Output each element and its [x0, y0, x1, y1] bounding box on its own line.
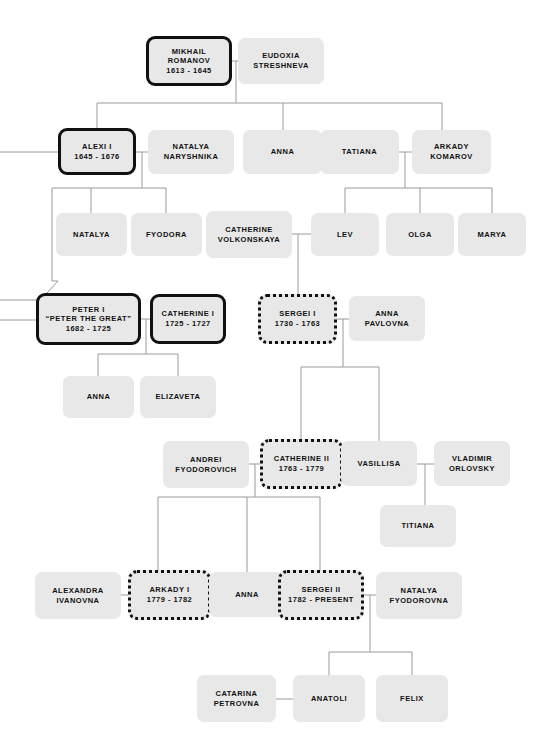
family-tree-diagram: MIKHAILROMANOV1613 - 1645EUDOXIASTRESHNE… [0, 0, 536, 754]
person-node-sergei2[interactable]: SERGEI II1782 - PRESENT [278, 570, 364, 620]
person-label-line: VOLKONSKAYA [218, 235, 280, 245]
person-label-line: PETROVNA [214, 699, 260, 709]
person-node-vladimirO[interactable]: VLADIMIRORLOVSKY [434, 441, 510, 486]
person-node-catherine2[interactable]: CATHERINE II1763 - 1779 [260, 439, 343, 489]
person-node-lev[interactable]: LEV [311, 213, 379, 256]
person-label-line: ALEXANDRA [52, 586, 104, 596]
person-label-line: 1730 - 1763 [275, 319, 321, 329]
person-node-catherineV[interactable]: CATHERINEVOLKONSKAYA [206, 211, 292, 258]
person-label-line: FYODORA [146, 230, 187, 240]
person-label-line: IVANOVNA [56, 596, 99, 606]
person-label-line: FELIX [400, 694, 424, 704]
person-node-elizaveta[interactable]: ELIZAVETA [140, 376, 216, 418]
person-label-line: “PETER THE GREAT” [46, 314, 132, 324]
person-label-line: 1613 - 1645 [166, 66, 212, 76]
person-label-line: ANNA [235, 590, 259, 600]
person-label-line: LEV [337, 230, 353, 240]
person-label-line: 1725 - 1727 [165, 319, 211, 329]
person-node-alexi1[interactable]: ALEXI I1645 - 1676 [58, 128, 136, 175]
person-node-peter1[interactable]: PETER I“PETER THE GREAT”1682 - 1725 [36, 293, 141, 345]
person-node-anna_r7[interactable]: ANNA [209, 572, 285, 617]
person-label-line: TITIANA [401, 521, 434, 531]
person-node-natalya_r3[interactable]: NATALYA [56, 213, 127, 256]
person-label-line: ANDREI [190, 455, 222, 465]
person-label-line: 1782 - PRESENT [288, 595, 354, 605]
person-label-line: NARYSHNIKA [164, 152, 219, 162]
person-node-anna_r5[interactable]: ANNA [63, 376, 134, 418]
person-node-anna_r2[interactable]: ANNA [243, 130, 322, 174]
person-node-titiana[interactable]: TITIANA [380, 505, 456, 547]
person-label-line: SERGEI II [301, 585, 340, 595]
person-label-line: 1682 - 1725 [66, 324, 112, 334]
person-node-felix[interactable]: FELIX [376, 675, 448, 722]
person-node-annaP[interactable]: ANNAPAVLOVNA [349, 296, 425, 341]
person-node-catarinaP[interactable]: CATARINAPETROVNA [197, 675, 276, 722]
person-label-line: OLGA [408, 230, 432, 240]
person-label-line: ANNA [271, 147, 295, 157]
person-node-natalyaN[interactable]: NATALYANARYSHNIKA [148, 130, 234, 174]
person-label-line: NATALYA [401, 586, 438, 596]
person-label-line: ROMANOV [168, 56, 211, 66]
person-label-line: ARKADY I [149, 585, 189, 595]
person-node-catherine1[interactable]: CATHERINE I1725 - 1727 [150, 294, 226, 344]
person-label-line: STRESHNEVA [253, 61, 309, 71]
person-label-line: 1645 - 1676 [74, 152, 120, 162]
person-label-line: SERGEI I [279, 309, 316, 319]
person-label-line: ORLOVSKY [449, 464, 495, 474]
person-label-line: VLADIMIR [452, 454, 492, 464]
person-label-line: ANATOLI [311, 694, 347, 704]
person-node-fyodora[interactable]: FYODORA [131, 213, 202, 256]
person-node-olga[interactable]: OLGA [386, 213, 454, 256]
person-node-alexandraI[interactable]: ALEXANDRAIVANOVNA [35, 572, 121, 619]
person-label-line: CATHERINE I [162, 309, 215, 319]
person-node-mikhail[interactable]: MIKHAILROMANOV1613 - 1645 [146, 36, 232, 86]
person-node-andreiF[interactable]: ANDREIFYODOROVICH [163, 441, 249, 488]
person-node-arkady1[interactable]: ARKADY I1779 - 1782 [128, 570, 211, 620]
person-label-line: ANNA [87, 392, 111, 402]
person-label-line: TATIANA [342, 147, 377, 157]
person-label-line: ANNA [375, 309, 399, 319]
person-label-line: KOMAROV [430, 152, 473, 162]
person-node-vasillisa[interactable]: VASILLISA [341, 441, 417, 486]
person-node-anatoli[interactable]: ANATOLI [293, 675, 365, 722]
person-label-line: 1779 - 1782 [147, 595, 193, 605]
person-label-line: PAVLOVNA [365, 319, 410, 329]
person-label-line: EUDOXIA [262, 51, 300, 61]
person-label-line: ELIZAVETA [155, 392, 200, 402]
person-label-line: ARKADY [434, 142, 469, 152]
person-label-line: MIKHAIL [172, 47, 207, 57]
person-label-line: 1763 - 1779 [279, 464, 325, 474]
person-node-tatiana[interactable]: TATIANA [320, 130, 399, 174]
person-label-line: CATHERINE [225, 225, 273, 235]
person-node-sergei1[interactable]: SERGEI I1730 - 1763 [258, 294, 337, 344]
person-label-line: CATARINA [215, 689, 257, 699]
person-node-natalyaF[interactable]: NATALYAFYODOROVNA [376, 572, 462, 619]
person-label-line: NATALYA [173, 142, 210, 152]
person-label-line: ALEXI I [82, 142, 112, 152]
person-label-line: VASILLISA [357, 459, 400, 469]
person-node-eudoxia[interactable]: EUDOXIASTRESHNEVA [238, 38, 324, 84]
person-label-line: PETER I [72, 305, 105, 315]
person-label-line: NATALYA [73, 230, 110, 240]
person-label-line: FYODOROVNA [390, 596, 449, 606]
person-node-arkadyK[interactable]: ARKADYKOMAROV [412, 130, 491, 174]
person-label-line: CATHERINE II [274, 454, 329, 464]
person-node-marya[interactable]: MARYA [458, 213, 526, 256]
person-label-line: MARYA [477, 230, 506, 240]
person-label-line: FYODOROVICH [175, 465, 236, 475]
